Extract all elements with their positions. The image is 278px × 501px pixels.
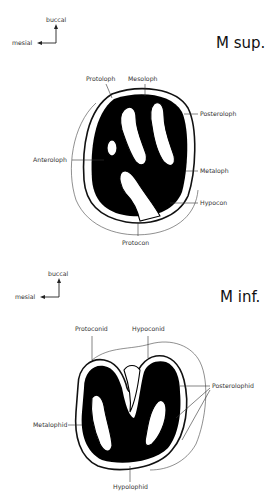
lower-orientation-indicator: buccal mesial [15,270,68,300]
upper-molar-drawing: Protoloph Mesoloph Posteroloph Anterolop… [33,75,236,246]
lower-title: M inf. [220,288,260,306]
label-hypoconid: Hypoconid [132,325,165,333]
label-posterolophid: Posterolophid [212,382,254,390]
label-posteroloph: Posteroloph [200,110,236,118]
buccal-label: buccal [48,270,68,277]
upper-title: M sup. [216,34,265,52]
arrow-up-icon [54,24,58,29]
mesial-label: mesial [12,39,33,46]
arrow-up-icon [57,278,61,283]
molar-diagrams: buccal mesial M sup. Protoloph Mesoloph … [0,0,278,501]
label-protocon: Protocon [122,239,149,246]
arrow-left-icon [40,295,45,299]
label-anteroloph: Anteroloph [33,156,67,164]
arrow-left-icon [37,41,42,45]
lower-molar-drawing: Protoconid Hypoconid Posterolophid Metal… [33,325,254,491]
label-hypolophid: Hypolophid [113,483,148,491]
label-hypocon: Hypocon [200,199,227,207]
upper-orientation-indicator: buccal mesial [12,16,66,46]
label-protoloph: Protoloph [86,75,115,83]
buccal-label: buccal [46,16,66,23]
label-metaloph: Metaloph [200,167,229,175]
label-metalophid: Metalophid [33,421,67,429]
mesial-label: mesial [15,293,36,300]
label-mesoloph: Mesoloph [128,75,158,83]
label-protoconid: Protoconid [75,325,108,332]
